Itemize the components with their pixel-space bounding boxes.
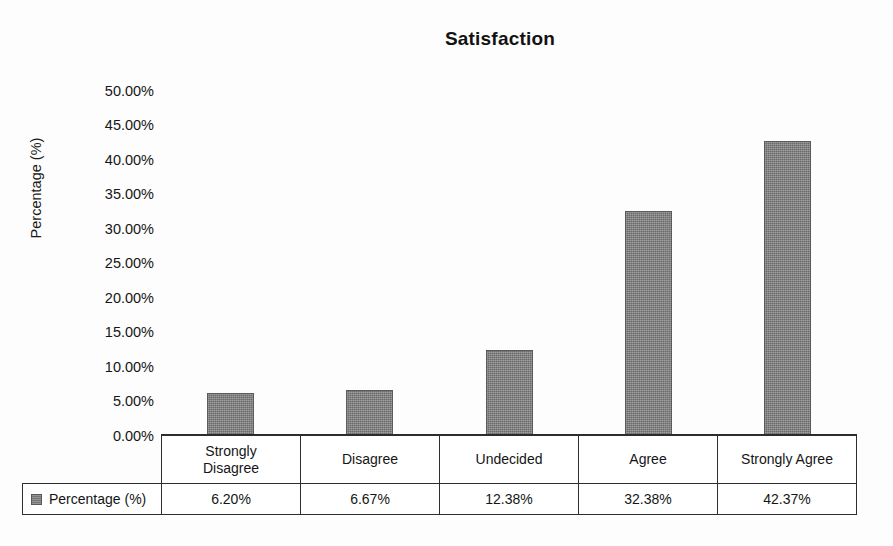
y-tick-label: 15.00%	[66, 325, 154, 340]
chart-title: Satisfaction	[340, 28, 660, 50]
y-tick-label: 25.00%	[66, 256, 154, 271]
y-tick-label: 20.00%	[66, 291, 154, 306]
y-tick-label: 30.00%	[66, 222, 154, 237]
column-header-undecided: Undecided	[440, 436, 579, 484]
column-header-line1: StronglyDisagree	[203, 443, 259, 476]
bar-chart-figure: Satisfaction Percentage (%) 50.00% 45.00…	[0, 0, 893, 546]
column-header-strongly-agree: Strongly Agree	[718, 436, 857, 484]
bar-slot	[300, 88, 439, 436]
table-header-row: StronglyDisagree Disagree Undecided Agre…	[23, 436, 857, 484]
y-tick-label: 35.00%	[66, 187, 154, 202]
column-header-agree: Agree	[579, 436, 718, 484]
column-header-strongly-disagree: StronglyDisagree	[162, 436, 301, 484]
bar-slot	[579, 88, 718, 436]
legend-swatch-icon	[31, 494, 42, 505]
value-cell-undecided: 12.38%	[440, 484, 579, 515]
bar-slot	[161, 88, 300, 436]
bar-strongly-agree	[764, 141, 811, 436]
table-value-row: Percentage (%) 6.20% 6.67% 12.38% 32.38%…	[23, 484, 857, 515]
table-corner-cell	[23, 436, 162, 484]
bar-strongly-disagree	[207, 393, 254, 436]
column-header-disagree: Disagree	[301, 436, 440, 484]
data-table: StronglyDisagree Disagree Undecided Agre…	[22, 435, 857, 515]
bars-container	[161, 88, 857, 436]
bar-slot	[718, 88, 857, 436]
bar-slot	[439, 88, 578, 436]
legend-entry: Percentage (%)	[23, 484, 162, 515]
y-tick-label: 10.00%	[66, 360, 154, 375]
plot-area	[161, 88, 857, 436]
y-tick-label: 5.00%	[66, 394, 154, 409]
legend-label: Percentage (%)	[49, 492, 146, 508]
y-tick-label: 40.00%	[66, 153, 154, 168]
bar-agree	[625, 211, 672, 436]
y-tick-label: 45.00%	[66, 118, 154, 133]
bar-undecided	[486, 350, 533, 436]
value-cell-agree: 32.38%	[579, 484, 718, 515]
value-cell-disagree: 6.67%	[301, 484, 440, 515]
y-axis-tick-labels: 50.00% 45.00% 40.00% 35.00% 30.00% 25.00…	[66, 80, 154, 460]
bar-disagree	[346, 390, 393, 436]
value-cell-strongly-agree: 42.37%	[718, 484, 857, 515]
value-cell-strongly-disagree: 6.20%	[162, 484, 301, 515]
y-axis-title: Percentage (%)	[28, 108, 44, 268]
y-tick-label: 50.00%	[66, 84, 154, 99]
